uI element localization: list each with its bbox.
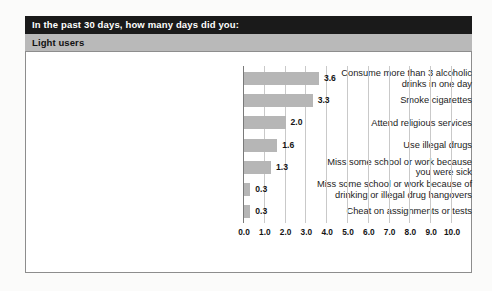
x-tick-label: 6.0	[358, 227, 380, 237]
gridline	[347, 66, 348, 223]
chart-axis-area: 3.63.32.01.61.30.30.30.01.02.03.04.05.06…	[243, 52, 472, 273]
bar	[244, 183, 250, 196]
chart-title-bar: In the past 30 days, how many days did y…	[25, 16, 472, 34]
chart-title-prefix: In the past 30 days, how many	[32, 19, 176, 30]
chart-title-suffix: did you:	[198, 19, 239, 30]
bar-value-label: 0.3	[255, 205, 267, 218]
bar-value-label: 3.6	[324, 72, 336, 85]
bar	[244, 161, 271, 174]
gridline	[409, 66, 410, 223]
bar-value-label: 2.0	[291, 116, 303, 129]
page-root: In the past 30 days, how many days did y…	[0, 0, 492, 291]
bar	[244, 205, 250, 218]
chart-title-emphasis: days	[176, 19, 198, 30]
x-tick-label: 4.0	[316, 227, 338, 237]
x-tick-label: 2.0	[275, 227, 297, 237]
x-tick-label: 1.0	[254, 227, 276, 237]
bar-value-label: 1.3	[276, 161, 288, 174]
chart-subtitle: Light users	[32, 37, 84, 48]
bar-value-label: 3.3	[318, 94, 330, 107]
x-tick-label: 9.0	[420, 227, 442, 237]
bar	[244, 94, 313, 107]
chart-subtitle-bar: Light users	[25, 34, 472, 52]
x-tick-label: 3.0	[295, 227, 317, 237]
chart-plot-area: Consume more than 3 alcoholic drinks in …	[25, 52, 472, 273]
bar	[244, 72, 319, 85]
x-tick-label: 5.0	[337, 227, 359, 237]
gridline	[368, 66, 369, 223]
x-tick-label: 7.0	[379, 227, 401, 237]
x-tick-label: 8.0	[399, 227, 421, 237]
x-tick-label: 10.0	[441, 227, 463, 237]
gridline	[326, 66, 327, 223]
bar	[244, 116, 286, 129]
bar-value-label: 1.6	[282, 139, 294, 152]
bar-value-label: 0.3	[255, 183, 267, 196]
gridline	[389, 66, 390, 223]
gridline	[451, 66, 452, 223]
gridline	[430, 66, 431, 223]
bar	[244, 139, 277, 152]
gridline	[305, 66, 306, 223]
x-tick-label: 0.0	[233, 227, 255, 237]
chart-title: In the past 30 days, how many days did y…	[32, 19, 239, 30]
